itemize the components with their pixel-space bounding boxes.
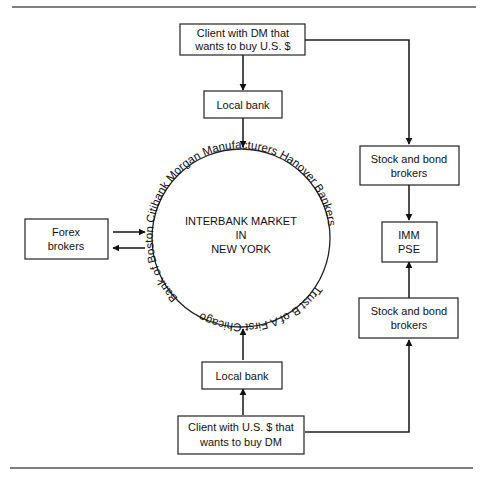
top-local-bank-box: Local bank bbox=[204, 91, 282, 118]
market-line-2: IN bbox=[236, 229, 247, 241]
imm-label: IMM bbox=[398, 229, 419, 241]
forex-line-1: Forex bbox=[52, 226, 81, 238]
top-stock-brokers-box: Stock and bond brokers bbox=[360, 146, 459, 185]
arrow-client-to-stock-brokers-top bbox=[305, 40, 409, 144]
market-line-3: NEW YORK bbox=[211, 243, 271, 255]
bottom-local-bank-label: Local bank bbox=[215, 370, 269, 382]
interbank-diagram: Client with DM that wants to buy U.S. $ … bbox=[0, 0, 487, 482]
top-client-box: Client with DM that wants to buy U.S. $ bbox=[180, 24, 305, 55]
bottom-stock-brokers-box: Stock and bond brokers bbox=[359, 298, 458, 338]
top-client-line-1: Client with DM that bbox=[197, 27, 289, 39]
arrow-client-to-stock-brokers-bottom bbox=[305, 340, 409, 432]
bottom-stock-brokers-line-2: brokers bbox=[391, 319, 428, 331]
bottom-stock-brokers-line-1: Stock and bond bbox=[371, 305, 447, 317]
bottom-local-bank-box: Local bank bbox=[202, 362, 282, 389]
market-line-1: INTERBANK MARKET bbox=[185, 215, 297, 227]
top-stock-brokers-line-2: brokers bbox=[391, 167, 428, 179]
bottom-client-box: Client with U.S. $ that wants to buy DM bbox=[178, 416, 304, 454]
pse-label: PSE bbox=[398, 243, 420, 255]
top-client-line-2: wants to buy U.S. $ bbox=[194, 40, 290, 52]
top-local-bank-label: Local bank bbox=[216, 99, 270, 111]
imm-pse-box: IMM PSE bbox=[382, 222, 437, 262]
interbank-market-circle: INTERBANK MARKET IN NEW YORK Bank of Bos… bbox=[143, 138, 338, 333]
bottom-client-line-1: Client with U.S. $ that bbox=[188, 421, 294, 433]
forex-brokers-box: Forex brokers bbox=[25, 219, 108, 259]
bottom-client-line-2: wants to buy DM bbox=[199, 436, 282, 448]
top-stock-brokers-line-1: Stock and bond bbox=[371, 153, 447, 165]
forex-line-2: brokers bbox=[48, 240, 85, 252]
